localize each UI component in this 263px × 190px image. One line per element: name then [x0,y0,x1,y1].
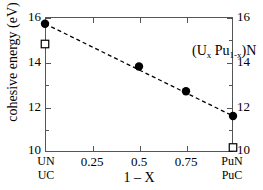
data-point-filled-circle [229,112,237,120]
chart-figure: cohesive energy (eV) (Ux Pu1-x)N 16 14 1… [0,0,263,190]
data-point-filled-circle [182,87,190,95]
data-point-open-square [41,40,49,48]
data-point-filled-circle [135,62,143,70]
data-point-filled-circle [41,20,49,28]
data-markers [41,20,237,152]
data-layer [0,0,263,190]
data-point-open-square [229,144,237,152]
